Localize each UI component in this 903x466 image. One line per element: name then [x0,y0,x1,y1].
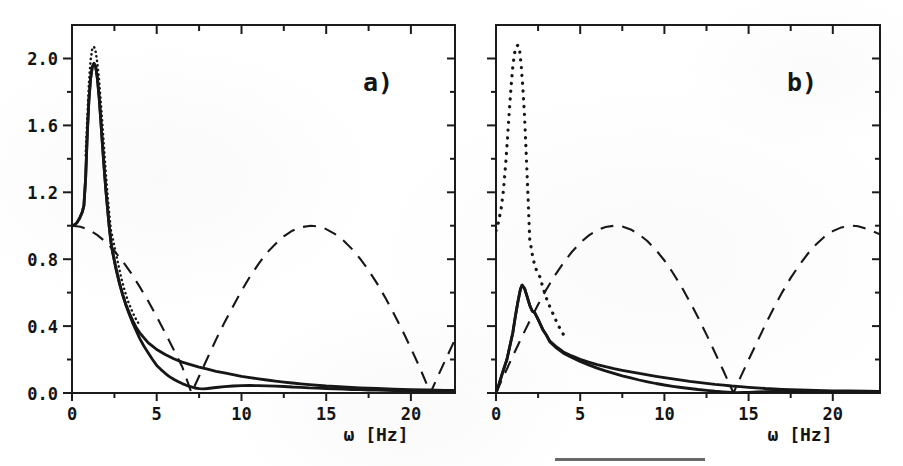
figure-svg: 0.00.40.81.21.62.005101520ω [Hz]a)051015… [0,0,903,466]
scan-artifact-line [555,458,705,461]
curve-dashed-lobes-b [496,226,880,393]
y-tick-label: 1.2 [27,183,58,203]
axis-ticks-b [487,25,880,401]
x-axis-title-a: ω [Hz] [343,424,408,445]
curve-solid-slow-decay-b [496,285,880,393]
scanned-figure-page: 0.00.40.81.21.62.005101520ω [Hz]a)051015… [0,0,903,466]
y-tick-label: 0.4 [27,317,58,337]
x-tick-label: 15 [316,404,336,424]
x-tick-label: 0 [491,404,501,424]
plot-frame-a [72,25,455,393]
curves-b [496,45,880,393]
plot-frame-b [496,25,880,393]
x-tick-label: 20 [401,404,421,424]
y-tick-label: 2.0 [27,49,58,69]
curve-solid-slow-decay-a [72,64,455,391]
x-tick-label: 20 [823,404,843,424]
panel-a: 0.00.40.81.21.62.005101520ω [Hz]a) [27,25,455,445]
curve-dashed-lobes-a [72,226,455,393]
y-tick-label: 0.0 [27,384,58,404]
curve-dotted-peak-a [86,47,139,323]
curve-solid-fast-decay-b [496,285,880,393]
curve-dotted-peak-b [496,45,567,338]
curves-a [72,47,455,393]
x-tick-label: 15 [738,404,758,424]
x-tick-label: 0 [67,404,77,424]
panel-label-b: b) [787,68,817,97]
y-tick-label: 1.6 [27,116,58,136]
x-tick-label: 5 [152,404,162,424]
axis-ticks-a [63,25,455,401]
curve-solid-fast-decay-a [72,64,455,392]
y-tick-label: 0.8 [27,250,58,270]
x-tick-label: 10 [654,404,674,424]
x-axis-title-b: ω [Hz] [767,424,832,445]
panel-b: 05101520ω [Hz]b) [487,25,880,445]
x-tick-label: 10 [231,404,251,424]
x-tick-label: 5 [575,404,585,424]
panel-label-a: a) [363,68,393,97]
